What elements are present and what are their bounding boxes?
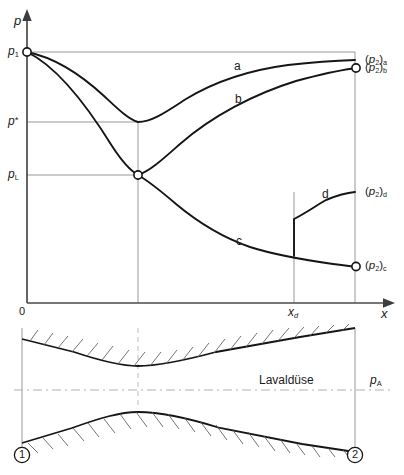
p2d-branch: d bbox=[383, 191, 387, 199]
x-axis-label: x bbox=[381, 307, 388, 320]
endpoint-label-p2c: (p2)c bbox=[365, 260, 387, 273]
y-tick-label-p1: p1 bbox=[8, 45, 19, 58]
nozzle-lower-wall bbox=[22, 412, 355, 452]
pstar-symbol: p bbox=[8, 114, 15, 128]
nozzle-name-label: Lavaldüse bbox=[259, 374, 314, 386]
marker-p2c bbox=[352, 262, 360, 270]
pA-symbol: p bbox=[370, 373, 377, 387]
figure-canvas bbox=[0, 0, 404, 475]
p1-subscript: 1 bbox=[15, 50, 19, 59]
xd-subscript: d bbox=[294, 311, 298, 320]
p2b-branch: b bbox=[383, 67, 387, 75]
y-axis-label: p bbox=[14, 14, 21, 27]
pA-subscript: A bbox=[377, 379, 382, 388]
station-label-inlet: 1 bbox=[19, 449, 25, 460]
guide-lines bbox=[27, 52, 355, 303]
curve-c bbox=[138, 175, 353, 267]
endpoint-label-p2b: (p2)b bbox=[365, 62, 387, 75]
axes-upper bbox=[22, 9, 395, 308]
y-tick-label-pstar: p* bbox=[8, 115, 18, 127]
curve-label-c: c bbox=[236, 235, 242, 247]
marker-p2b bbox=[352, 64, 360, 72]
curve-label-d: d bbox=[322, 188, 329, 200]
station-label-exit: 2 bbox=[352, 449, 358, 460]
y-tick-label-pL: pL bbox=[8, 168, 19, 181]
curve-b bbox=[27, 52, 353, 175]
ambient-pressure-label: pA bbox=[370, 374, 382, 387]
pressure-distribution-laval-nozzle-figure: p x 0 p1 p* pL xd a b c d (p2)a (p2)b (p… bbox=[0, 0, 404, 475]
marker-p1 bbox=[23, 48, 31, 56]
endpoint-label-p2d: (p2)d bbox=[365, 186, 387, 199]
origin-label: 0 bbox=[19, 306, 25, 317]
upper-wall-hatching bbox=[30, 324, 349, 366]
marker-pL-throat bbox=[134, 171, 142, 179]
y-axis-arrowhead bbox=[22, 9, 31, 21]
p2c-branch: c bbox=[383, 265, 387, 273]
curve-label-b: b bbox=[235, 93, 242, 105]
curve-label-a: a bbox=[234, 60, 241, 72]
nozzle-upper-wall bbox=[22, 328, 355, 366]
state-markers bbox=[23, 48, 360, 271]
pstar-superscript: * bbox=[15, 114, 19, 125]
x-tick-label-xd: xd bbox=[288, 306, 298, 319]
nozzle-schematic bbox=[14, 324, 392, 463]
pL-subscript: L bbox=[15, 173, 19, 182]
pL-symbol: p bbox=[8, 167, 15, 181]
curve-a bbox=[27, 52, 355, 122]
p1-symbol: p bbox=[8, 44, 15, 58]
